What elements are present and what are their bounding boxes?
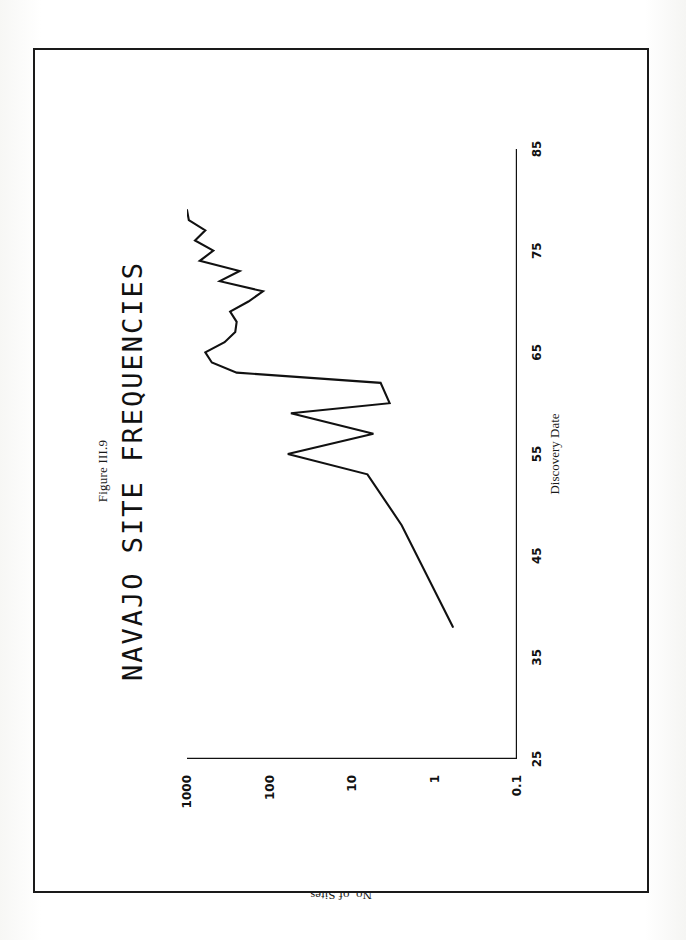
x-axis-title: Discovery Date — [547, 149, 563, 759]
x-tick-label: 65 — [530, 343, 544, 360]
figure: Figure III.9 NAVAJO SITE FREQUENCIES 253… — [91, 91, 591, 851]
y-tick-label: 1 — [428, 775, 442, 783]
x-tick-label: 85 — [530, 140, 544, 157]
page-border-frame: Figure III.9 NAVAJO SITE FREQUENCIES 253… — [33, 48, 649, 893]
x-tick-label: 35 — [530, 648, 544, 665]
chart-title: NAVAJO SITE FREQUENCIES — [117, 91, 148, 851]
y-tick-label: 0.1 — [510, 775, 524, 796]
data-series-group — [187, 210, 453, 627]
y-tick-label: 10 — [345, 775, 359, 792]
series-line — [187, 210, 453, 627]
line-chart-svg — [187, 149, 517, 759]
y-tick-label: 100 — [263, 775, 277, 800]
plot-area: 25354555657585 0.11101001000 — [187, 149, 517, 759]
x-tick-label: 75 — [530, 242, 544, 259]
rotated-figure-wrapper: Figure III.9 NAVAJO SITE FREQUENCIES 253… — [91, 91, 591, 851]
axes-group — [187, 149, 517, 759]
scanned-page: Figure III.9 NAVAJO SITE FREQUENCIES 253… — [0, 0, 686, 940]
x-tick-label: 45 — [530, 547, 544, 564]
figure-caption: Figure III.9 — [95, 91, 111, 851]
y-axis-title: No. of Sites — [241, 887, 441, 903]
x-tick-label: 25 — [530, 750, 544, 767]
y-tick-label: 1000 — [180, 775, 194, 808]
x-tick-label: 55 — [530, 445, 544, 462]
